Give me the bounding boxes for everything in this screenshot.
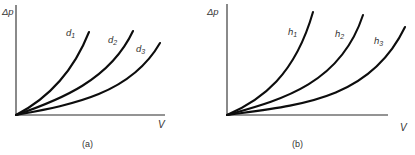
panel-b-y-axis-label: Δp bbox=[206, 6, 219, 17]
panel-a-y-axis-label: Δp bbox=[1, 6, 14, 17]
panel-a-label-d1: d1 bbox=[66, 27, 75, 39]
panel-b-label-h3: h3 bbox=[374, 35, 383, 47]
panel-b-curve-h2 bbox=[227, 15, 363, 115]
pressure-drop-diagram: Δp V d1 d2 d3 (a) Δp V h1 h2 h3 (b) bbox=[0, 0, 415, 155]
panel-a-label-d2: d2 bbox=[108, 34, 117, 46]
panel-b-label-h2: h2 bbox=[335, 28, 344, 40]
panel-a-x-axis-label: V bbox=[158, 119, 166, 130]
panel-a-caption: (a) bbox=[82, 139, 93, 149]
panel-a-label-d3: d3 bbox=[136, 43, 145, 55]
panel-b-caption: (b) bbox=[292, 139, 303, 149]
panel-b-label-h1: h1 bbox=[288, 26, 297, 38]
panel-a: Δp V d1 d2 d3 (a) bbox=[1, 5, 166, 149]
panel-b-x-axis-label: V bbox=[400, 122, 408, 133]
panel-b: Δp V h1 h2 h3 (b) bbox=[206, 4, 408, 149]
panel-b-curve-h1 bbox=[227, 12, 313, 115]
panel-a-curve-d1 bbox=[16, 32, 89, 115]
